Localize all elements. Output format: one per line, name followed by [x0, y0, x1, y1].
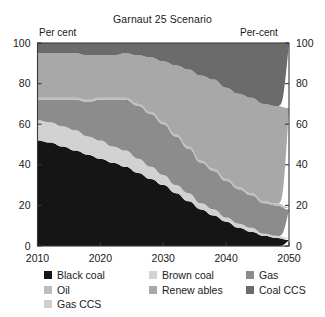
legend-item-black-coal[interactable]: Black coal — [44, 269, 149, 281]
y-tick-label-right: 40 — [296, 158, 308, 170]
y-tick-label-right: 80 — [296, 77, 308, 89]
legend-item-brown-coal[interactable]: Brown coal — [149, 269, 246, 281]
legend-row: OilRenew ablesCoal CCS — [44, 283, 306, 298]
y-tick-label-right: 100 — [296, 37, 314, 49]
legend-label: Gas — [259, 269, 278, 281]
x-tick-label: 2040 — [214, 252, 238, 264]
legend-item-oil[interactable]: Oil — [44, 284, 149, 296]
legend-swatch-icon — [44, 271, 52, 279]
y-tick-label-left: 80 — [19, 77, 31, 89]
chart-legend: Black coalBrown coalGasOilRenew ablesCoa… — [44, 268, 306, 312]
legend-label: Gas CCS — [57, 298, 101, 310]
y-tick-label-left: 40 — [19, 158, 31, 170]
chart-root: Garnaut 25 Scenario Per cent Per-cent 00… — [0, 0, 325, 317]
legend-item-gas-ccs[interactable]: Gas CCS — [44, 298, 149, 310]
y-tick-label-left: 100 — [13, 37, 31, 49]
legend-swatch-icon — [149, 271, 157, 279]
legend-label: Coal CCS — [259, 284, 306, 296]
legend-swatch-icon — [44, 300, 52, 308]
legend-item-gas[interactable]: Gas — [246, 269, 306, 281]
legend-item-renew-ables[interactable]: Renew ables — [149, 284, 246, 296]
y-tick-label-left: 60 — [19, 118, 31, 130]
legend-swatch-icon — [246, 271, 254, 279]
y-tick-label-right: 20 — [296, 199, 308, 211]
legend-row: Black coalBrown coalGas — [44, 268, 306, 283]
legend-label: Brown coal — [162, 269, 214, 281]
x-tick-label: 2030 — [152, 252, 176, 264]
y-tick-label-right: 60 — [296, 118, 308, 130]
legend-swatch-icon — [149, 286, 157, 294]
stacked-area-plot: 0020204040606080801001002010202020302040… — [0, 0, 325, 265]
legend-label: Oil — [57, 284, 70, 296]
legend-row: Gas CCS — [44, 297, 306, 312]
y-tick-label-left: 20 — [19, 199, 31, 211]
x-tick-label: 2050 — [277, 252, 301, 264]
x-tick-label: 2010 — [26, 252, 50, 264]
y-tick-label-right: 0 — [296, 240, 302, 252]
legend-swatch-icon — [44, 286, 52, 294]
x-tick-label: 2020 — [89, 252, 113, 264]
y-tick-label-left: 0 — [25, 240, 31, 252]
legend-swatch-icon — [246, 286, 254, 294]
legend-label: Black coal — [57, 269, 105, 281]
legend-item-coal-ccs[interactable]: Coal CCS — [246, 284, 306, 296]
legend-label: Renew ables — [162, 284, 223, 296]
